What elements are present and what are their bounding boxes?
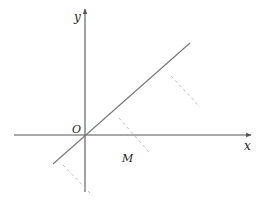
x-axis-label: x — [244, 139, 251, 153]
origin-label: O — [72, 123, 81, 136]
y-axis-label: y — [73, 10, 81, 24]
dashed-segment-lower — [63, 165, 91, 194]
coordinate-diagram: y x O M — [0, 0, 263, 204]
point-m-label: M — [121, 152, 134, 165]
dashed-segment-upper — [171, 76, 200, 107]
line-through-origin — [53, 43, 190, 164]
